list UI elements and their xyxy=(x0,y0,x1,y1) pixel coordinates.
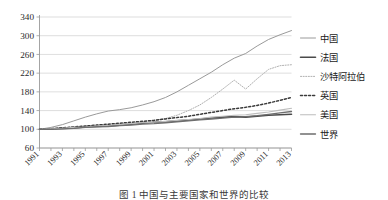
x-tick-label: 2003 xyxy=(160,150,178,168)
legend-label-3: 英国 xyxy=(320,90,338,101)
y-tick-label: 260 xyxy=(20,50,34,60)
legend-label-0: 中国 xyxy=(320,33,338,44)
y-axis-tick-labels: 60100140180220260300340 xyxy=(20,12,39,153)
x-tick-label: 2005 xyxy=(183,150,201,168)
x-tick-label: 2009 xyxy=(229,150,247,168)
x-tick-label: 1997 xyxy=(91,150,109,168)
x-tick-label: 1993 xyxy=(46,150,64,168)
figure-caption: 图 1 中国与主要国家和世界的比较 xyxy=(0,189,388,200)
y-tick-label: 140 xyxy=(20,106,34,116)
chart-legend: 中国法国沙特阿拉伯英国美国世界 xyxy=(301,33,366,140)
chart-figure: 60100140180220260300340 1991199319951997… xyxy=(0,0,388,200)
y-tick-label: 180 xyxy=(20,87,34,97)
x-tick-label: 2011 xyxy=(252,150,270,168)
legend-label-2: 沙特阿拉伯 xyxy=(320,71,365,82)
y-tick-label: 100 xyxy=(20,124,34,134)
x-axis-tick-labels: 1991199319951997199920012003200520072009… xyxy=(23,150,293,168)
data-series-group xyxy=(40,31,292,130)
legend-label-4: 美国 xyxy=(320,109,338,120)
x-tick-label: 2013 xyxy=(275,150,293,168)
x-tick-label: 2007 xyxy=(206,150,224,168)
y-tick-label: 220 xyxy=(20,68,34,78)
legend-label-1: 法国 xyxy=(320,52,338,63)
x-tick-label: 2001 xyxy=(137,150,155,168)
legend-label-5: 世界 xyxy=(320,129,338,140)
x-tick-label: 1999 xyxy=(114,150,132,168)
x-tick-label: 1995 xyxy=(69,150,87,168)
series-line-0 xyxy=(40,31,292,130)
line-chart: 60100140180220260300340 1991199319951997… xyxy=(0,0,388,200)
y-tick-label: 340 xyxy=(20,12,34,22)
y-tick-label: 300 xyxy=(20,31,34,41)
